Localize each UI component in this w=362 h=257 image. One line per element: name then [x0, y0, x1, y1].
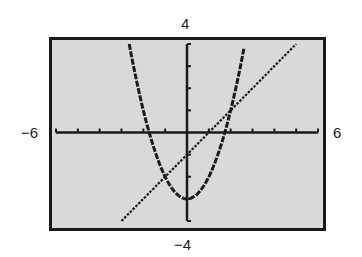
plot-area — [0, 0, 362, 257]
axes — [56, 44, 318, 221]
